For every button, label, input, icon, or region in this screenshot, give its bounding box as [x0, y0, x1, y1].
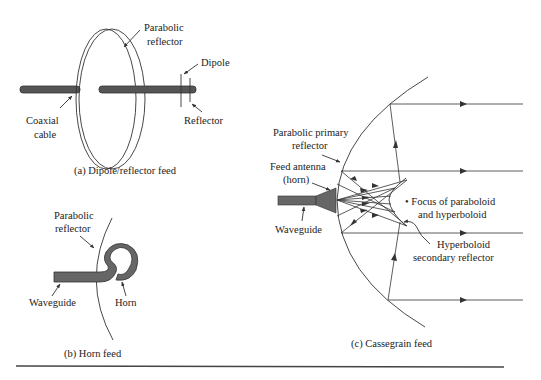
cassegrain-waveguide [278, 196, 316, 205]
waveguide-horn [54, 244, 138, 282]
label-parabolic-reflector: Parabolic [144, 22, 184, 33]
label-coaxial-cable-2: cable [34, 129, 56, 140]
panel-c-cassegrain-feed: Parabolic primary reflector Feed antenna… [270, 77, 523, 350]
label-focus: • Focus of paraboloid [405, 196, 496, 207]
panel-a-dipole-feed: Parabolic reflector Dipole Coaxial cable… [20, 22, 230, 177]
label-b-parabolic-reflector: Parabolic [54, 210, 94, 221]
label-hyperboloid: Hyperboloid [437, 239, 491, 250]
parabolic-reflector-dish-back [76, 29, 136, 169]
label-parabolic-primary-reflector: Parabolic primary [273, 127, 349, 138]
antenna-feed-diagram: Parabolic reflector Dipole Coaxial cable… [0, 0, 541, 380]
label-cassegrain-waveguide: Waveguide [275, 224, 322, 235]
label-focus-2: and hyperboloid [418, 209, 487, 220]
label-waveguide: Waveguide [29, 297, 76, 308]
label-feed-antenna: Feed antenna [270, 161, 326, 172]
feed-rays [337, 171, 407, 233]
label-hyperboloid-2: secondary reflector [413, 252, 494, 263]
label-dipole: Dipole [201, 57, 230, 68]
coaxial-cable [20, 86, 80, 93]
label-reflector: Reflector [184, 115, 224, 126]
caption-b: (b) Horn feed [64, 348, 122, 360]
label-horn: Horn [115, 297, 137, 308]
parabolic-reflector-dish [79, 29, 145, 169]
bottom-rule [16, 366, 504, 367]
cassegrain-horn [316, 188, 336, 213]
label-parabolic-reflector-2: reflector [147, 36, 183, 47]
label-b-parabolic-reflector-2: reflector [55, 223, 91, 234]
label-parabolic-primary-reflector-2: reflector [292, 140, 328, 151]
hyperboloid-secondary-reflector [389, 178, 406, 226]
caption-a: (a) Dipole/reflector feed [74, 165, 177, 177]
label-coaxial-cable: Coaxial [26, 115, 59, 126]
panel-b-horn-feed: Parabolic reflector Waveguide Horn (b) H… [29, 210, 138, 360]
label-feed-antenna-2: (horn) [283, 174, 310, 186]
caption-c: (c) Cassegrain feed [351, 338, 433, 350]
